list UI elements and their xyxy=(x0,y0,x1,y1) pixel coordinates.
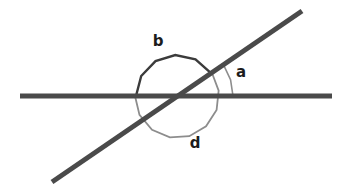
geometry-diagram-canvas: a b d xyxy=(0,0,345,194)
angle-label-b: b xyxy=(153,32,164,50)
geometry-figure: a b d xyxy=(0,0,345,194)
angle-label-a: a xyxy=(236,63,246,81)
angle-label-d: d xyxy=(190,134,201,152)
